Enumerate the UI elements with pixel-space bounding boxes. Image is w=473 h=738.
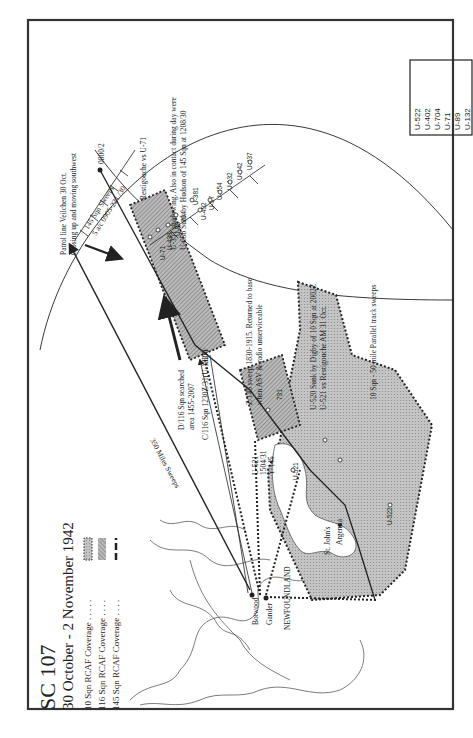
d116-label: D/116 Sqn searched <box>177 370 186 430</box>
place-gander: Gander <box>265 602 274 625</box>
uboat-731: 731 <box>276 389 283 400</box>
map-title: SC 107 <box>35 645 60 710</box>
uboat-list-item: U-522 <box>413 108 422 130</box>
sqn10-sweeps-label: 10 Sqn - 50 mile Parallel track sweeps <box>369 285 378 400</box>
uboat-u89: U-89 <box>174 222 181 236</box>
uboat-list-item: U-89 <box>453 112 462 130</box>
sweeps-350-label: 350 Miles Sweeps <box>148 437 182 490</box>
restigouche-label: Restigouche vs U-71 <box>139 137 148 200</box>
uboat-u57: U-57 <box>208 196 215 210</box>
uboat-list-item: U-402 <box>423 108 432 130</box>
position-0800-2-label: 0800/2 <box>97 143 106 164</box>
botwood-marker <box>250 593 255 598</box>
z145-label: Z/145 sweep 1830-1915. Returned to base <box>245 277 254 405</box>
u521-restigouche-label: U-521 vs Restigouche AM 31 Oct. <box>319 306 328 410</box>
direction-arrow-1 <box>85 245 120 258</box>
position-0800-label: 0800/ <box>201 347 210 365</box>
legend-item-145-sqn: 145 Sqn RCAF Coverage . . . . <box>111 600 121 710</box>
patrol-line-sublabel: Closing up and moving southwest <box>69 152 78 255</box>
uboat-list-item: U-704 <box>433 108 442 130</box>
z145-sublabel: when ASV & radio unserviceable <box>255 304 264 405</box>
map-subtitle: 30 October - 2 November 1942 <box>60 522 76 710</box>
uboat-u522: U-522 <box>386 507 393 525</box>
legend-item-116-sqn: 116 Sqn RCAF Coverage . . . . <box>97 600 107 710</box>
uboat-u438: U-438 <box>166 232 173 250</box>
map-figure: SC 107 30 October - 2 November 1942 10 S… <box>0 0 473 738</box>
legend-item-10-sqn: 10 Sqn RCAF Coverage . . . . . <box>83 600 93 710</box>
place-st-johns: St. John's <box>323 526 332 555</box>
legend-swatch-116-sqn <box>98 538 106 560</box>
d116-sublabel: area 1455-2007 <box>187 383 196 430</box>
place-newfoundland: NEWFOUNDLAND <box>283 566 292 630</box>
gander-marker <box>264 596 269 601</box>
uboat-u381: U-381 <box>192 187 199 205</box>
uboat-list-item: U-71 <box>443 112 452 130</box>
place-botwood: Botwood <box>251 597 260 625</box>
patrol-line-label: Patrol line Veilchen 30 Oct. <box>59 172 68 255</box>
uboat-u71: U-71 <box>159 246 166 260</box>
uboat-list-item: U-132 <box>463 108 472 130</box>
legend-swatch-10-sqn <box>84 538 92 560</box>
uboat-u704: 704 <box>180 211 187 222</box>
place-argentia: Argentia <box>335 518 344 545</box>
position-0800-2-marker <box>98 168 103 173</box>
u520-label: U-520 Sunk by Digby of 10 Sqn at 2002Z <box>309 283 318 410</box>
y145-label: Y/145 <box>267 456 276 475</box>
